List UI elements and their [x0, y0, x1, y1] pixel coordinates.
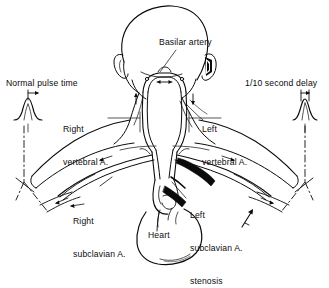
label-left-vertebral-artery: Left vertebral A. [202, 102, 247, 179]
label-left-vertebral-line1: Left [202, 124, 247, 135]
label-left-vertebral-line2: vertebral A. [202, 157, 247, 168]
label-right-vertebral-artery: Right vertebral A. [63, 102, 108, 179]
label-one-tenth-second-delay: 1/10 second delay [245, 78, 317, 88]
label-normal-pulse-time: Normal pulse time [6, 78, 78, 88]
label-right-vertebral-line1: Right [63, 124, 108, 135]
label-left-subclavian-line2: subclavian A. [190, 243, 243, 254]
label-basilar-artery: Basilar artery [159, 37, 212, 47]
label-right-subclavian-line1: Right [73, 216, 126, 227]
label-right-subclavian-artery: Right subclavian A. [73, 194, 126, 271]
label-left-subclavian-line1: Left [190, 210, 243, 221]
label-heart: Heart [148, 230, 170, 240]
label-left-subclavian-stenosis: Left subclavian A. stenosis [190, 188, 243, 288]
label-right-vertebral-line2: vertebral A. [63, 157, 108, 168]
label-right-subclavian-line2: subclavian A. [73, 249, 126, 260]
label-left-subclavian-line3: stenosis [190, 276, 243, 287]
